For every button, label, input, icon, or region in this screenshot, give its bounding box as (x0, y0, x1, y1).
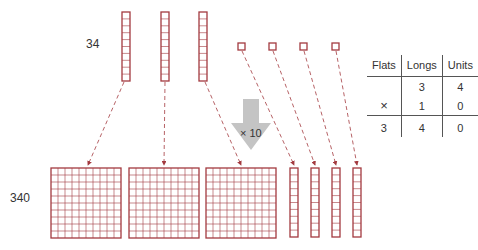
dashed-arrow (88, 82, 124, 165)
row1-longs: 3 (401, 77, 442, 97)
top-unit-block (300, 43, 307, 50)
row1-op (367, 77, 401, 97)
result-longs: 4 (401, 116, 442, 138)
row2-longs: 1 (401, 96, 442, 116)
dashed-arrow (336, 51, 357, 165)
down-arrow-icon (231, 99, 271, 150)
row2-op-times-icon: × (367, 96, 401, 116)
multiplier-label: × 10 (240, 127, 262, 139)
header-flats: Flats (367, 55, 401, 77)
dashed-arrow (164, 82, 165, 165)
row1-units: 4 (442, 77, 478, 97)
result-flats: 3 (367, 116, 401, 138)
place-value-table: Flats Longs Units 3 4 × 1 0 3 4 0 (367, 55, 478, 137)
top-unit-block (269, 43, 276, 50)
header-units: Units (442, 55, 478, 77)
top-unit-block (238, 43, 245, 50)
top-unit-block (332, 43, 339, 50)
row2-units: 0 (442, 96, 478, 116)
result-units: 0 (442, 116, 478, 138)
dashed-arrow (304, 51, 336, 165)
header-longs: Longs (401, 55, 442, 77)
